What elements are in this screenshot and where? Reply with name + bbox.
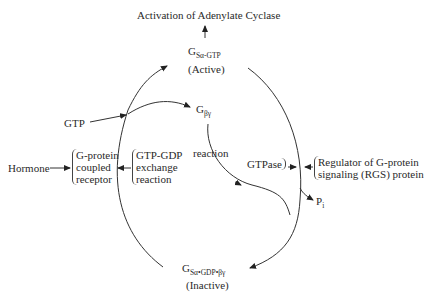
activation-label: Activation of Adenylate Cyclase xyxy=(137,9,280,21)
exchange-label: GTP-GDP exchange reaction xyxy=(132,149,182,185)
hormone-label: Hormone xyxy=(8,162,50,174)
gtp-arrow xyxy=(90,115,126,122)
gtp-label: GTP xyxy=(64,117,85,129)
receptor-label: G-protein coupled receptor xyxy=(72,149,119,185)
gbg-arrow xyxy=(128,102,190,114)
inactive-state-label: (Inactive) xyxy=(186,279,229,291)
gtpase-label: GTPase xyxy=(247,158,286,170)
rgs-label: Regulator of G-protein signaling (RGS) p… xyxy=(314,156,424,180)
reaction-label: reaction xyxy=(193,147,228,159)
pi-label: Pi xyxy=(316,195,324,209)
beta-gamma-label: Gβγ xyxy=(196,103,211,117)
active-state-symbol: GSα-GTP xyxy=(188,45,221,59)
pi-arrow xyxy=(300,188,313,200)
inactive-state-symbol: GSα•GDP•βγ xyxy=(182,262,225,276)
active-state-label: (Active) xyxy=(188,63,225,75)
